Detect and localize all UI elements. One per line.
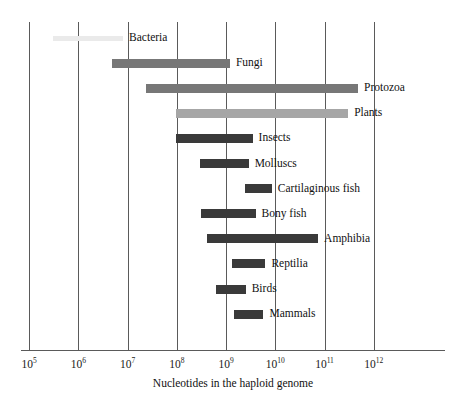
bar-label-bacteria: Bacteria xyxy=(129,32,167,44)
bar-mammals xyxy=(234,310,263,319)
gridline-10-8 xyxy=(177,22,178,350)
bar-fungi xyxy=(112,59,230,68)
bar-label-cartilaginous-fish: Cartilaginous fish xyxy=(278,183,360,195)
bar-bony-fish xyxy=(201,209,255,218)
bar-insects xyxy=(176,134,252,143)
bar-label-amphibia: Amphibia xyxy=(324,233,370,245)
gridline-10-12 xyxy=(374,22,375,350)
tick-10-10 xyxy=(275,341,276,351)
gridline-10-9 xyxy=(226,22,227,350)
tick-label-10-9: 109 xyxy=(201,359,251,371)
tick-10-8 xyxy=(177,341,178,351)
bar-birds xyxy=(216,285,246,294)
tick-10-11 xyxy=(325,341,326,351)
tick-10-5 xyxy=(29,341,30,351)
tick-10-7 xyxy=(128,341,129,351)
bar-molluscs xyxy=(200,159,248,168)
tick-label-10-12: 1012 xyxy=(349,359,399,371)
tick-10-9 xyxy=(226,341,227,351)
bar-label-birds: Birds xyxy=(252,283,277,295)
bar-label-reptilia: Reptilia xyxy=(271,258,307,270)
bar-label-molluscs: Molluscs xyxy=(255,158,297,170)
bar-label-fungi: Fungi xyxy=(236,57,263,69)
tick-label-10-10: 1010 xyxy=(250,359,300,371)
gridline-10-7 xyxy=(128,22,129,350)
genome-size-range-chart: BacteriaFungiProtozoaPlantsInsectsMollus… xyxy=(0,0,466,404)
tick-label-10-8: 108 xyxy=(152,359,202,371)
x-axis-line xyxy=(21,350,445,351)
tick-label-10-7: 107 xyxy=(103,359,153,371)
gridline-10-6 xyxy=(78,22,79,350)
tick-label-10-11: 1011 xyxy=(300,359,350,371)
bar-label-mammals: Mammals xyxy=(269,308,315,320)
tick-10-12 xyxy=(374,341,375,351)
x-axis-title: Nucleotides in the haploid genome xyxy=(0,378,466,390)
bar-label-plants: Plants xyxy=(354,107,382,119)
bar-cartilaginous-fish xyxy=(245,184,272,193)
bar-label-bony-fish: Bony fish xyxy=(262,208,307,220)
gridline-10-10 xyxy=(275,22,276,350)
bar-label-insects: Insects xyxy=(259,132,291,144)
bar-amphibia xyxy=(207,234,318,243)
bar-plants xyxy=(176,109,348,118)
bar-reptilia xyxy=(232,259,265,268)
gridline-10-5 xyxy=(29,22,30,350)
bar-protozoa xyxy=(146,84,358,93)
bar-label-protozoa: Protozoa xyxy=(364,82,405,94)
tick-10-6 xyxy=(78,341,79,351)
tick-label-10-5: 105 xyxy=(4,359,54,371)
tick-label-10-6: 106 xyxy=(53,359,103,371)
bar-bacteria xyxy=(53,36,123,41)
